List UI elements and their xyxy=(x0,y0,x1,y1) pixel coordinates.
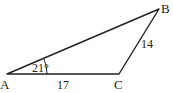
side-cb-label: 14 xyxy=(141,37,153,51)
side-ac-label: 17 xyxy=(57,78,69,92)
angle-a-label: 21° xyxy=(32,61,49,75)
vertex-label-a: A xyxy=(0,77,10,92)
vertex-label-c: C xyxy=(114,77,123,92)
triangle-abc xyxy=(7,9,159,74)
triangle-diagram: A B C 21° 17 14 xyxy=(0,0,173,93)
vertex-label-b: B xyxy=(161,1,170,16)
